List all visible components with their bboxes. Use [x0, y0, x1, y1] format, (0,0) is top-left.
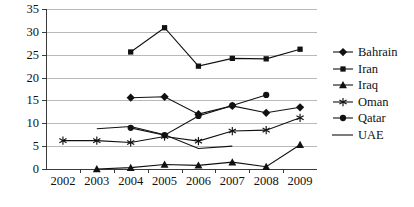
legend-item-oman[interactable]: Oman: [331, 94, 411, 111]
x-tick-label-2005: 2005: [152, 175, 177, 188]
y-tick-label-20: 20: [27, 71, 40, 84]
x-tick-mark-3: [148, 169, 149, 173]
data-point-bahrain-2004: [127, 94, 135, 102]
x-tick-mark-6: [249, 169, 250, 173]
x-tick-mark-7: [283, 169, 284, 173]
y-tick-mark-0: [42, 169, 46, 170]
data-point-iran-2007: [230, 56, 235, 61]
data-point-qatar-2004: [128, 125, 134, 131]
y-tick-label-25: 25: [27, 48, 40, 61]
x-tick-mark-1: [80, 169, 81, 173]
legend-label-iran: Iran: [355, 63, 378, 76]
data-point-qatar-2007: [229, 102, 235, 108]
x-tick-label-2002: 2002: [50, 175, 75, 188]
data-point-qatar-2008: [263, 92, 269, 98]
y-tick-label-5: 5: [33, 140, 39, 153]
x-tick-mark-2: [114, 169, 115, 173]
series-svg: [46, 9, 317, 169]
data-point-qatar-2006: [195, 113, 201, 119]
y-tick-label-30: 30: [27, 26, 40, 39]
plot-area: 0510152025303520022003200420052006200720…: [46, 9, 317, 169]
legend-marker-diamond-icon: [331, 45, 355, 59]
legend-label-qatar: Qatar: [355, 112, 386, 125]
data-point-iran-2004: [128, 49, 133, 54]
series-line-oman: [63, 118, 300, 143]
legend-marker-circle-icon: [331, 111, 355, 125]
legend-marker-triangle-icon: [331, 78, 355, 92]
legend-item-qatar[interactable]: Qatar: [331, 110, 411, 127]
x-tick-label-2007: 2007: [220, 175, 245, 188]
series-iraq: [93, 141, 304, 172]
legend-label-iraq: Iraq: [355, 79, 378, 92]
data-series-layer: [46, 9, 317, 169]
data-point-oman-2009: [296, 114, 303, 122]
data-point-bahrain-2005: [160, 93, 168, 101]
legend-label-uae: UAE: [355, 129, 384, 142]
x-tick-label-2008: 2008: [254, 175, 279, 188]
series-iran: [128, 25, 303, 69]
x-tick-mark-4: [182, 169, 183, 173]
line-chart-figure: 0510152025303520022003200420052006200720…: [0, 0, 414, 207]
x-tick-label-2006: 2006: [186, 175, 211, 188]
data-point-iran-2005: [162, 25, 167, 30]
legend-marker-square-icon: [331, 62, 355, 76]
data-point-bahrain-2009: [296, 103, 304, 111]
data-point-iran-2006: [196, 64, 201, 69]
series-bahrain: [127, 93, 305, 119]
data-point-iraq-2007: [228, 158, 236, 165]
series-line-bahrain: [131, 97, 300, 114]
x-tick-mark-5: [215, 169, 216, 173]
legend-marker-none-icon: [331, 128, 355, 142]
data-point-iran-2009: [297, 47, 302, 52]
y-tick-label-15: 15: [27, 94, 40, 107]
y-tick-label-0: 0: [33, 163, 39, 176]
legend-label-oman: Oman: [355, 96, 389, 109]
y-tick-label-35: 35: [27, 3, 40, 16]
x-tick-label-2009: 2009: [288, 175, 313, 188]
data-point-iran-2008: [264, 56, 269, 61]
legend: BahrainIranIraqOmanQatarUAE: [331, 44, 411, 143]
data-point-bahrain-2008: [262, 109, 270, 117]
x-tick-label-2004: 2004: [118, 175, 143, 188]
legend-label-bahrain: Bahrain: [355, 46, 398, 59]
legend-marker-asterisk-icon: [331, 95, 355, 109]
legend-item-uae[interactable]: UAE: [331, 127, 411, 144]
series-line-iran: [131, 28, 300, 66]
y-tick-label-10: 10: [27, 117, 40, 130]
legend-item-iran[interactable]: Iran: [331, 61, 411, 78]
data-point-iraq-2009: [296, 141, 304, 148]
legend-item-bahrain[interactable]: Bahrain: [331, 44, 411, 61]
x-tick-label-2003: 2003: [84, 175, 109, 188]
legend-item-iraq[interactable]: Iraq: [331, 77, 411, 94]
